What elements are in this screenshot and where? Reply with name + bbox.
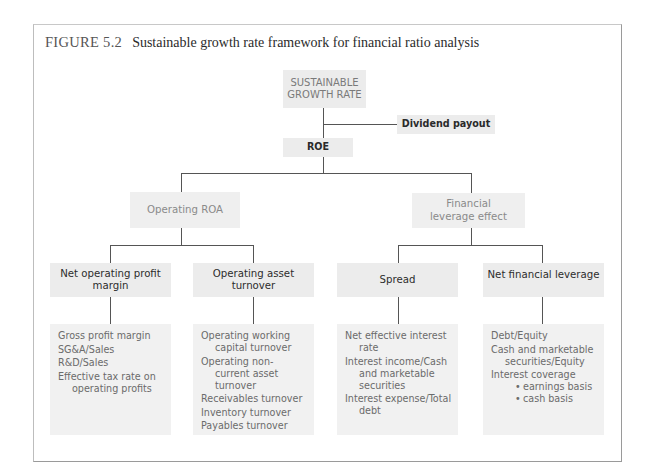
list-item: Interest income/Cash and marketable secu…: [345, 356, 452, 392]
list-margin-ratios: Gross profit margin SG&A/Sales R&D/Sales…: [50, 324, 171, 435]
list-item: Debt/Equity: [491, 330, 598, 342]
connector-spread-list: [398, 297, 399, 324]
list-item: R&D/Sales: [58, 357, 165, 369]
node-oat-label: Operating asset turnover: [211, 268, 296, 293]
connector-leverage-branch: [398, 245, 543, 246]
list-item: Interest coverage: [491, 369, 598, 381]
node-sgr-label: SUSTAINABLE GROWTH RATE: [283, 77, 366, 102]
list-item: Effective tax rate on operating profits: [58, 371, 165, 395]
connector-operating-roa-down: [181, 228, 182, 245]
node-net-operating-profit-margin: Net operating profit margin: [50, 263, 171, 297]
connector-roe-down: [323, 157, 324, 173]
node-dividend-payout: Dividend payout: [397, 115, 495, 134]
connector-to-spread: [398, 245, 399, 263]
connector-nfl-list: [542, 297, 543, 324]
list-spread-ratios: Net effective interest rate Interest inc…: [337, 324, 458, 435]
figure-caption: FIGURE 5.2 Sustainable growth rate frame…: [45, 33, 479, 51]
list-item: Operating working capital turnover: [201, 330, 308, 354]
list-item: SG&A/Sales: [58, 344, 165, 356]
node-sustainable-growth-rate: SUSTAINABLE GROWTH RATE: [283, 70, 366, 108]
list-item: Payables turnover: [201, 420, 308, 432]
list-item: Receivables turnover: [201, 393, 308, 405]
list-item: Inventory turnover: [201, 407, 308, 419]
connector-dividend: [323, 124, 397, 125]
node-roe: ROE: [283, 138, 353, 157]
node-operating-roa-label: Operating ROA: [147, 204, 223, 217]
connector-to-nopm: [110, 245, 111, 263]
connector-to-operating-roa: [181, 173, 182, 192]
node-dividend-label: Dividend payout: [402, 118, 491, 131]
connector-oat-list: [253, 297, 254, 324]
connector-operating-branch: [110, 245, 254, 246]
list-subitem: earnings basis: [491, 381, 598, 393]
list-subitem: cash basis: [491, 393, 598, 405]
node-nopm-label: Net operating profit margin: [60, 268, 161, 293]
list-turnover-ratios: Operating working capital turnover Opera…: [193, 324, 314, 435]
node-financial-leverage-effect-label: Financial leverage effect: [428, 198, 509, 223]
connector-leverage-effect-down: [471, 228, 472, 245]
connector-to-nfl: [542, 245, 543, 263]
node-nfl-label: Net financial leverage: [488, 269, 600, 282]
list-item: Net effective interest rate: [345, 330, 452, 354]
node-financial-leverage-effect: Financial leverage effect: [412, 193, 525, 228]
connector-to-oat: [253, 245, 254, 263]
node-roe-label: ROE: [307, 141, 329, 154]
node-spread-label: Spread: [380, 274, 416, 287]
list-item: Gross profit margin: [58, 330, 165, 342]
list-item: Operating non-current asset turnover: [201, 356, 308, 392]
node-operating-asset-turnover: Operating asset turnover: [193, 263, 314, 297]
connector-nopm-list: [110, 297, 111, 324]
list-item: Interest expense/Total debt: [345, 393, 452, 417]
node-spread: Spread: [337, 263, 458, 297]
connector-sgr-roe: [323, 108, 324, 138]
figure-title: Sustainable growth rate framework for fi…: [132, 35, 479, 50]
figure-label: FIGURE 5.2: [45, 34, 122, 50]
node-net-financial-leverage: Net financial leverage: [483, 263, 604, 297]
node-operating-roa: Operating ROA: [130, 192, 240, 228]
list-item: Cash and marketable securities/Equity: [491, 344, 598, 368]
connector-to-leverage-effect: [471, 173, 472, 193]
list-leverage-ratios: Debt/Equity Cash and marketable securiti…: [483, 324, 604, 435]
connector-roe-branch: [181, 173, 472, 174]
